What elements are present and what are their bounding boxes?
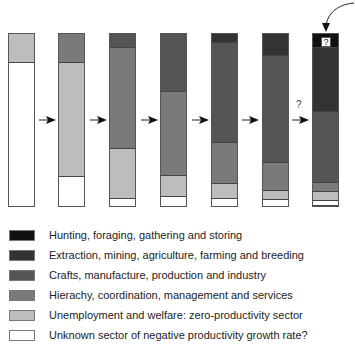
stacked-bar	[58, 33, 85, 207]
bar-segment-unemployment	[212, 184, 237, 199]
bar-segment-crafts	[212, 43, 237, 143]
bar-segment-unknown	[212, 199, 237, 206]
legend-label: Unemployment and welfare: zero-productiv…	[49, 309, 303, 321]
arrow-icon	[242, 115, 259, 125]
arrow-icon	[141, 115, 158, 125]
legend-label: Hunting, foraging, gathering and storing	[49, 229, 242, 241]
stacked-bar	[211, 33, 238, 207]
unknown-question-box: ?	[321, 37, 331, 47]
stacked-bar: ?	[312, 33, 339, 207]
arrow-icon	[192, 115, 209, 125]
arrow-icon	[90, 115, 107, 125]
stacked-bar	[160, 33, 187, 207]
bar-segment-unemployment	[161, 176, 186, 197]
bar-segment-crafts	[110, 34, 135, 48]
legend-item-crafts: Crafts, manufacture, production and indu…	[9, 269, 266, 281]
bar-segment-unknown	[161, 197, 186, 206]
bar-segment-unemployment	[263, 191, 288, 200]
bar-segment-hierarchy	[212, 143, 237, 184]
legend-swatch	[9, 290, 35, 301]
transition-question-mark: ?	[296, 99, 302, 110]
bar-segment-crafts	[161, 34, 186, 92]
bar-segment-extraction	[313, 48, 338, 112]
curved-arrow-icon	[318, 0, 355, 34]
legend-swatch	[9, 310, 35, 321]
legend-item-hunting: Hunting, foraging, gathering and storing	[9, 229, 242, 241]
bar-segment-unknown	[110, 199, 135, 206]
legend-swatch	[9, 330, 35, 341]
bar-segment-unemployment	[313, 192, 338, 201]
bar-segment-hierarchy	[59, 34, 84, 63]
bar-segment-unemployment	[110, 149, 135, 199]
bar-segment-hierarchy	[161, 92, 186, 176]
legend-label: Extraction, mining, agriculture, farming…	[49, 249, 304, 261]
bar-segment-hierarchy	[110, 48, 135, 149]
bar-segment-unemployment	[59, 63, 84, 177]
legend-item-unemployment: Unemployment and welfare: zero-productiv…	[9, 309, 303, 321]
legend-label: Crafts, manufacture, production and indu…	[49, 269, 266, 281]
stacked-bar	[109, 33, 136, 207]
bar-segment-unemployment	[9, 34, 34, 63]
bar-segment-unknown	[313, 201, 338, 206]
bar-segment-hierarchy	[263, 163, 288, 191]
bar-segment-unknown	[263, 200, 288, 206]
legend-swatch	[9, 270, 35, 281]
bar-segment-extraction	[212, 34, 237, 43]
legend-item-unknown: Unknown sector of negative productivity …	[9, 329, 308, 341]
bar-segment-unknown	[9, 63, 34, 206]
bar-segment-hierarchy	[313, 183, 338, 192]
legend-label: Unknown sector of negative productivity …	[49, 329, 308, 341]
stacked-bar	[8, 33, 35, 207]
legend-item-extraction: Extraction, mining, agriculture, farming…	[9, 249, 304, 261]
legend-item-hierarchy: Hierachy, coordination, management and s…	[9, 289, 293, 301]
bar-segment-crafts	[313, 112, 338, 183]
legend-swatch	[9, 250, 35, 261]
stacked-bar	[262, 33, 289, 207]
arrow-icon	[292, 115, 309, 125]
legend-swatch	[9, 230, 35, 241]
legend-label: Hierachy, coordination, management and s…	[49, 289, 293, 301]
arrow-icon	[39, 115, 56, 125]
bar-segment-unknown	[59, 177, 84, 206]
bar-segment-extraction	[263, 34, 288, 56]
bar-segment-crafts	[263, 56, 288, 163]
